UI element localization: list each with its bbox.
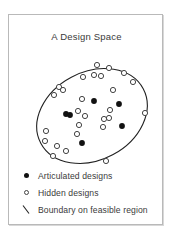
articulated-design-point [67, 112, 73, 118]
hidden-design-point [106, 115, 111, 120]
legend-label-boundary: Boundary on feasible region [38, 205, 148, 215]
hidden-design-point [51, 92, 56, 97]
hidden-design-point [106, 65, 111, 70]
hidden-design-point [42, 138, 47, 143]
hidden-design-point [107, 107, 112, 112]
feasible-region-boundary [20, 50, 164, 182]
hidden-design-point [142, 110, 147, 115]
hidden-design-point [103, 158, 108, 163]
articulated-designs-series [63, 98, 125, 146]
hidden-design-point [82, 113, 87, 118]
hidden-design-point [110, 87, 115, 92]
hidden-design-point [100, 124, 105, 129]
hidden-design-point [80, 74, 85, 79]
legend-item-hidden: Hidden designs [21, 184, 161, 201]
hollow-circle-icon [21, 186, 34, 199]
hidden-design-point [63, 148, 68, 153]
legend-label-articulated: Articulated designs [38, 171, 113, 181]
legend-item-boundary: Boundary on feasible region [21, 201, 161, 218]
hidden-design-point [91, 72, 96, 77]
hidden-design-point [60, 87, 65, 92]
filled-dot-icon [21, 169, 34, 182]
hidden-design-point [74, 131, 79, 136]
hidden-design-point [75, 108, 80, 113]
hidden-design-point [98, 73, 103, 78]
articulated-design-point [79, 140, 85, 146]
legend-item-articulated: Articulated designs [21, 167, 161, 184]
hidden-design-point [76, 122, 81, 127]
hidden-designs-series [42, 62, 147, 163]
articulated-design-point [116, 101, 122, 107]
articulated-design-point [91, 98, 97, 104]
articulated-design-point [119, 123, 125, 129]
hidden-design-point [54, 143, 59, 148]
hidden-design-point [79, 96, 84, 101]
design-space-figure: A Design Space Articulated designs Hidde… [0, 0, 173, 239]
legend-label-hidden: Hidden designs [38, 188, 99, 198]
hidden-design-point [130, 79, 135, 84]
figure-panel: A Design Space Articulated designs Hidde… [8, 14, 163, 225]
hidden-design-point [50, 153, 55, 158]
hidden-design-point [43, 128, 48, 133]
hidden-design-point [94, 62, 99, 67]
feasible-region-boundary [20, 50, 164, 182]
hidden-design-point [101, 116, 106, 121]
diagonal-line-icon [21, 203, 34, 216]
hidden-design-point [121, 70, 126, 75]
legend: Articulated designs Hidden designs Bound… [21, 167, 161, 218]
